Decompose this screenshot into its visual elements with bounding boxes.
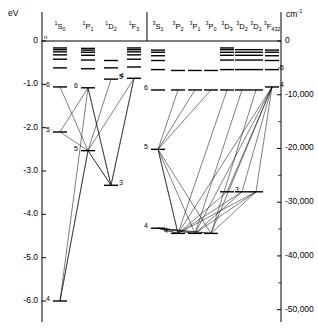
- level-n-label: 5: [280, 64, 284, 71]
- level-n-label: 5: [74, 145, 78, 152]
- right-axis-tick-label: -30,000: [285, 196, 314, 206]
- transition-line: [60, 151, 88, 301]
- level-n-label: 4: [144, 222, 148, 229]
- transition-line: [60, 88, 88, 301]
- transition-line: [242, 87, 272, 192]
- transition-line: [88, 79, 111, 151]
- transition-line: [195, 87, 272, 233]
- left-axis-tick-label: -6.0: [0, 295, 38, 305]
- left-axis-tick-label: -2.0: [0, 122, 38, 132]
- level-n-label: 5: [144, 143, 148, 150]
- transition-line: [158, 149, 178, 233]
- right-axis-tick-label: -10,000: [285, 89, 314, 99]
- level-n-label: 5: [46, 126, 50, 133]
- transition-line: [158, 90, 178, 149]
- transition-line: [60, 88, 88, 132]
- right-axis-tick-label: -50,000: [285, 304, 314, 314]
- transition-line: [158, 90, 195, 149]
- transition-line: [88, 151, 111, 186]
- level-diagram-canvas: [0, 0, 318, 329]
- level-n-label: 6: [144, 84, 148, 91]
- level-n-label: 6: [46, 81, 50, 88]
- level-n-label: 4: [164, 227, 168, 234]
- term-symbol-3F432: 3F432: [256, 20, 288, 32]
- level-n-label: 4: [120, 72, 124, 79]
- level-n-label: 3: [119, 179, 123, 186]
- transition-line: [88, 78, 134, 150]
- right-axis-tick-label: -40,000: [285, 250, 314, 260]
- transition-line: [158, 149, 195, 233]
- transition-line: [211, 90, 256, 233]
- right-axis-tick-label: 0: [285, 35, 290, 45]
- transition-line: [88, 88, 111, 186]
- transition-line: [211, 87, 272, 233]
- transition-line: [178, 87, 272, 233]
- level-n-label: 3: [235, 186, 239, 193]
- transition-line: [158, 90, 211, 149]
- grotrian-diagram: eV cm-1 n 0-1.0-2.0-3.0-4.0-5.0-6.00-10,…: [0, 0, 318, 329]
- left-axis-tick-label: 0: [0, 35, 38, 45]
- level-n-label: 4: [280, 81, 284, 88]
- level-n-label: 6: [74, 82, 78, 89]
- transition-line: [178, 192, 256, 234]
- transition-line: [158, 149, 211, 233]
- level-n-label: 4: [46, 295, 50, 302]
- left-axis-tick-label: -3.0: [0, 165, 38, 175]
- transition-line: [111, 78, 134, 185]
- transition-line: [178, 192, 242, 234]
- left-axis-tick-label: -4.0: [0, 208, 38, 218]
- left-axis-tick-label: -5.0: [0, 252, 38, 262]
- right-axis-tick-label: -20,000: [285, 142, 314, 152]
- left-axis-tick-label: -1.0: [0, 78, 38, 88]
